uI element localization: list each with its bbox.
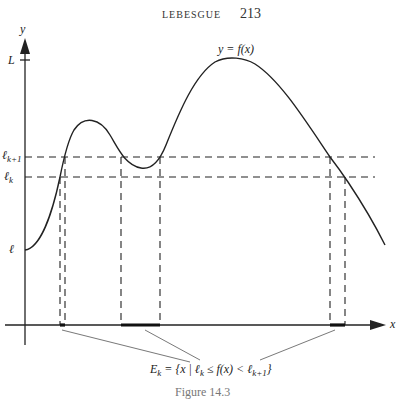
function-curve — [25, 58, 385, 250]
x-axis-arrow-icon — [370, 320, 386, 330]
y-axis-label: y — [20, 22, 25, 37]
pointer-lines — [62, 330, 335, 362]
level-lines — [25, 157, 375, 177]
figure-caption: Figure 14.3 — [175, 385, 230, 400]
curve-label: y = f(x) — [218, 42, 254, 57]
level-l-k1-label: ℓk+1 — [2, 148, 22, 164]
level-L-label: L — [8, 53, 15, 68]
level-l-label: ℓ — [9, 242, 14, 257]
x-axis-label: x — [390, 317, 395, 332]
set-definition-label: Ek = {x | ℓk ≤ f(x) < ℓk+1} — [150, 362, 272, 378]
level-l-k-label: ℓk — [4, 169, 13, 185]
drop-lines — [60, 157, 345, 325]
y-axis-arrow-icon — [20, 38, 30, 54]
